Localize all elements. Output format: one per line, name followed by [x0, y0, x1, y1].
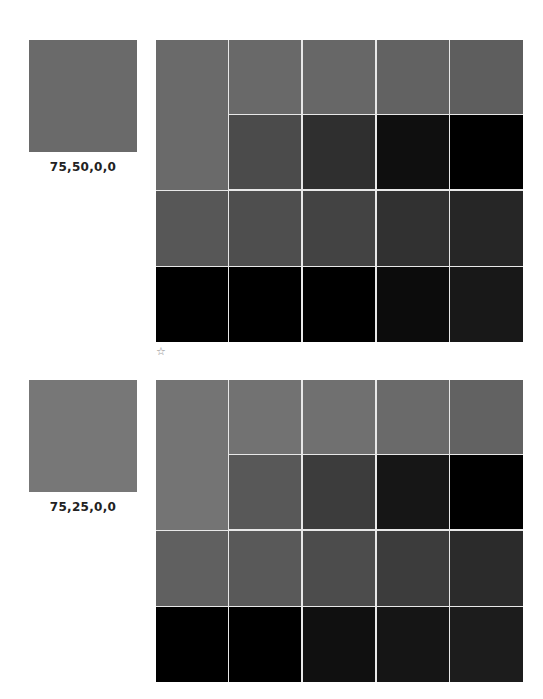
color-cell	[229, 607, 301, 682]
color-cell	[377, 380, 449, 454]
color-cell	[229, 380, 301, 454]
swatch-label: 75,25,0,0	[29, 500, 137, 514]
color-cell	[303, 531, 375, 606]
color-cell	[377, 191, 449, 266]
color-cell	[229, 191, 301, 266]
color-cell	[450, 380, 523, 454]
color-cell	[450, 267, 523, 342]
color-cell	[377, 267, 449, 342]
color-cell	[377, 115, 449, 189]
color-cell	[303, 40, 375, 114]
color-cell	[156, 40, 228, 190]
color-cell	[303, 455, 375, 529]
color-cell	[450, 531, 523, 606]
color-cell	[229, 115, 301, 189]
color-cell	[450, 40, 523, 114]
color-cell	[450, 191, 523, 266]
color-cell	[377, 455, 449, 529]
color-cell	[229, 40, 301, 114]
color-cell	[303, 380, 375, 454]
color-cell	[450, 607, 523, 682]
color-cell	[156, 380, 228, 530]
color-swatch	[29, 380, 137, 492]
color-cell	[303, 607, 375, 682]
color-grid	[156, 380, 523, 682]
color-cell	[303, 191, 375, 266]
color-cell	[303, 267, 375, 342]
color-grid	[156, 40, 523, 342]
color-cell	[156, 191, 228, 266]
color-cell	[377, 531, 449, 606]
color-cell	[229, 267, 301, 342]
color-cell	[229, 531, 301, 606]
color-cell	[156, 531, 228, 606]
color-cell	[303, 115, 375, 189]
color-cell	[229, 455, 301, 529]
color-cell	[377, 607, 449, 682]
swatch-label: 75,50,0,0	[29, 160, 137, 174]
color-swatch	[29, 40, 137, 152]
color-cell	[450, 115, 523, 189]
color-cell	[377, 40, 449, 114]
color-cell	[450, 455, 523, 529]
color-cell	[156, 267, 228, 342]
star-icon[interactable]: ☆	[156, 345, 166, 358]
color-cell	[156, 607, 228, 682]
